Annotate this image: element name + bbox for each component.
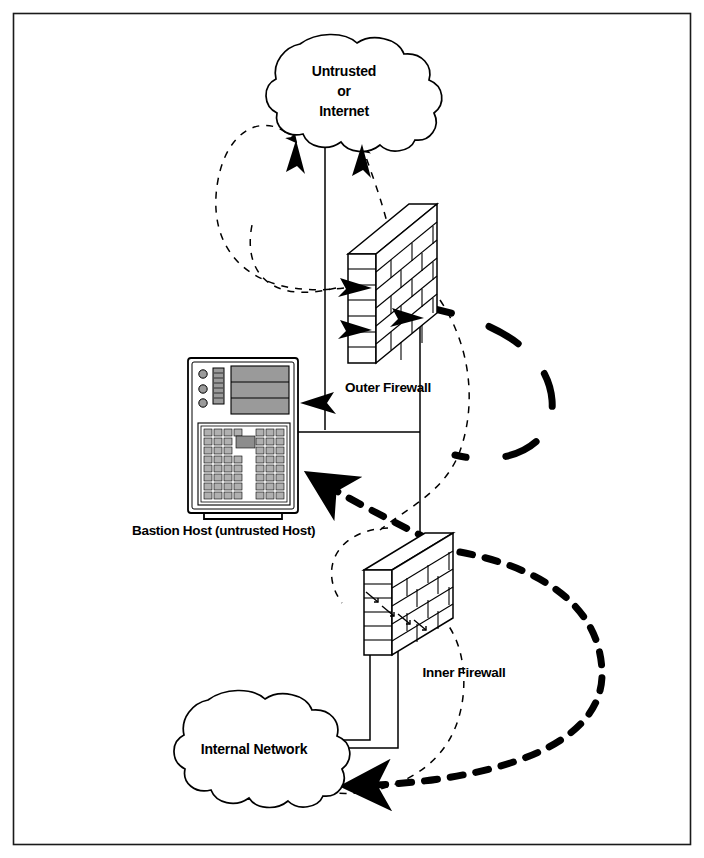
- bastion-host-card-slot: [213, 368, 224, 404]
- untrusted-cloud-label-line2: or: [337, 83, 351, 99]
- untrusted-cloud-label-line1: Untrusted: [312, 63, 376, 79]
- bastion-host-indicator-3: [199, 399, 207, 407]
- inner-firewall-label: Inner Firewall: [423, 665, 506, 680]
- network-diagram-svg: Untrusted or Internet Internal Network: [0, 0, 704, 858]
- bastion-host-label: Bastion Host (untrusted Host): [132, 523, 315, 538]
- internal-cloud-label: Internal Network: [201, 741, 308, 757]
- bastion-host-indicator-1: [199, 370, 207, 378]
- diagram-canvas: Untrusted or Internet Internal Network: [0, 0, 704, 858]
- outer-firewall-label: Outer Firewall: [345, 380, 431, 395]
- bastion-host-screen: [231, 366, 289, 414]
- bastion-host-indicator-2: [199, 385, 207, 393]
- untrusted-cloud-label-line3: Internet: [319, 103, 369, 119]
